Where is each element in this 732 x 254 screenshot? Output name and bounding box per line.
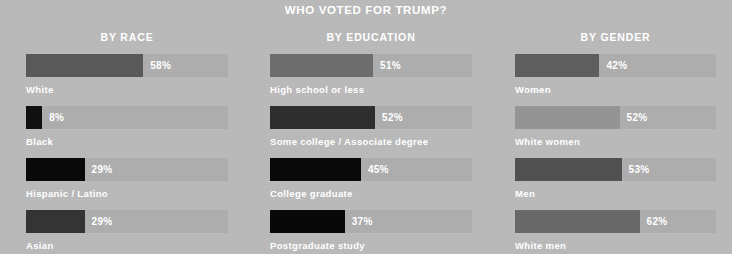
bar-track: 8% bbox=[26, 106, 228, 129]
bar-track: 42% bbox=[515, 54, 716, 77]
bar-value: 51% bbox=[380, 54, 401, 77]
bar-label: Black bbox=[26, 136, 228, 147]
bar-track: 29% bbox=[26, 210, 228, 233]
bar-value: 52% bbox=[627, 106, 648, 129]
bar-value: 37% bbox=[352, 210, 373, 233]
bar-group: 62% White men bbox=[515, 210, 716, 251]
bar-label: White women bbox=[515, 136, 716, 147]
panel-by-race: BY RACE 58% White 8% Black 29% Hispanic … bbox=[26, 30, 228, 254]
bar-value: 29% bbox=[92, 158, 113, 181]
bar-group: 37% Postgraduate study bbox=[270, 210, 472, 251]
bar-track: 58% bbox=[26, 54, 228, 77]
bar-fill bbox=[515, 210, 640, 233]
bar-group: 45% College graduate bbox=[270, 158, 472, 199]
bar-fill bbox=[515, 158, 622, 181]
bar-fill bbox=[270, 106, 375, 129]
panel-by-education: BY EDUCATION 51% High school or less 52%… bbox=[270, 30, 472, 254]
bar-fill bbox=[270, 54, 373, 77]
bar-label: White bbox=[26, 84, 228, 95]
bar-label: Women bbox=[515, 84, 716, 95]
bar-group: 51% High school or less bbox=[270, 54, 472, 95]
bar-track: 53% bbox=[515, 158, 716, 181]
bar-track: 62% bbox=[515, 210, 716, 233]
bar-fill bbox=[26, 158, 85, 181]
bar-value: 42% bbox=[606, 54, 627, 77]
bar-value: 62% bbox=[647, 210, 668, 233]
bar-label: Postgraduate study bbox=[270, 240, 472, 251]
bar-track: 45% bbox=[270, 158, 472, 181]
panel-title: BY EDUCATION bbox=[270, 30, 472, 44]
bar-fill bbox=[26, 210, 85, 233]
bar-value: 8% bbox=[49, 106, 64, 129]
bar-group: 29% Hispanic / Latino bbox=[26, 158, 228, 199]
bar-value: 29% bbox=[92, 210, 113, 233]
chart-panels: BY RACE 58% White 8% Black 29% Hispanic … bbox=[0, 30, 732, 254]
bar-fill bbox=[26, 106, 42, 129]
bar-group: 58% White bbox=[26, 54, 228, 95]
bar-label: White men bbox=[515, 240, 716, 251]
bar-fill bbox=[270, 158, 361, 181]
bar-label: College graduate bbox=[270, 188, 472, 199]
bar-label: High school or less bbox=[270, 84, 472, 95]
bar-track: 52% bbox=[515, 106, 716, 129]
page-title: WHO VOTED FOR TRUMP? bbox=[0, 4, 732, 16]
panel-by-gender: BY GENDER 42% Women 52% White women 53% … bbox=[515, 30, 716, 254]
bar-group: 53% Men bbox=[515, 158, 716, 199]
bar-value: 52% bbox=[382, 106, 403, 129]
bar-value: 58% bbox=[150, 54, 171, 77]
bar-fill bbox=[270, 210, 345, 233]
bar-track: 37% bbox=[270, 210, 472, 233]
bar-label: Asian bbox=[26, 240, 228, 251]
bar-value: 53% bbox=[629, 158, 650, 181]
bar-group: 29% Asian bbox=[26, 210, 228, 251]
bar-track: 52% bbox=[270, 106, 472, 129]
bar-group: 52% White women bbox=[515, 106, 716, 147]
bar-fill bbox=[26, 54, 143, 77]
panel-title: BY GENDER bbox=[515, 30, 716, 44]
bar-group: 42% Women bbox=[515, 54, 716, 95]
bar-label: Hispanic / Latino bbox=[26, 188, 228, 199]
bar-group: 8% Black bbox=[26, 106, 228, 147]
bar-label: Men bbox=[515, 188, 716, 199]
bar-value: 45% bbox=[368, 158, 389, 181]
bar-fill bbox=[515, 106, 620, 129]
bar-group: 52% Some college / Associate degree bbox=[270, 106, 472, 147]
bar-fill bbox=[515, 54, 599, 77]
bar-label: Some college / Associate degree bbox=[270, 136, 472, 147]
bar-track: 29% bbox=[26, 158, 228, 181]
bar-track: 51% bbox=[270, 54, 472, 77]
panel-title: BY RACE bbox=[26, 30, 228, 44]
